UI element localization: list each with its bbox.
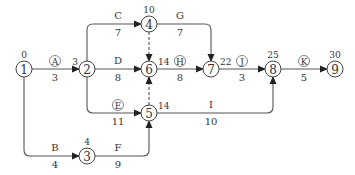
activity-duration: 7: [115, 27, 121, 38]
activity-label: A: [51, 57, 59, 67]
node-number: 1: [20, 63, 28, 77]
activity-duration: 8: [177, 72, 183, 83]
activity-duration: 7: [177, 27, 183, 38]
node-number: 3: [83, 150, 91, 164]
activity-arrow-g: [157, 24, 211, 61]
activity-duration: 4: [52, 159, 58, 170]
activity-label: C: [114, 10, 122, 21]
activity-label: G: [176, 10, 184, 21]
node-time: 14: [158, 57, 170, 67]
node-time: 3: [72, 57, 78, 67]
node-number: 4: [145, 18, 153, 32]
activity-label: F: [115, 142, 122, 153]
activity-label: H: [176, 57, 184, 67]
node-time: 30: [329, 50, 341, 60]
activity-label: D: [114, 55, 122, 66]
node-time: 14: [158, 101, 170, 111]
activity-label: K: [301, 57, 308, 67]
node-time: 22: [220, 57, 231, 67]
network-svg: 123456789 A3B4C7D8E11F9G7H8I10J3K5034101…: [0, 0, 355, 175]
node-time: 4: [84, 137, 90, 147]
activity-label: I: [209, 99, 213, 110]
node-number: 9: [331, 63, 339, 77]
activity-label: B: [51, 142, 58, 153]
activity-duration: 5: [301, 72, 307, 83]
activity-duration: 3: [52, 72, 58, 83]
node-number: 5: [145, 107, 153, 121]
node-time: 0: [21, 50, 27, 60]
node-number: 2: [83, 63, 91, 77]
activity-duration: 3: [239, 72, 245, 83]
activity-duration: 10: [205, 116, 218, 127]
activity-duration: 11: [112, 116, 125, 127]
activity-duration: 8: [115, 72, 121, 83]
node-number: 8: [269, 63, 277, 77]
node-time: 25: [267, 50, 279, 60]
node-number: 6: [145, 63, 153, 77]
node-time: 10: [143, 5, 155, 15]
activity-arrow-i: [157, 77, 273, 113]
node-number: 7: [207, 63, 215, 77]
activity-duration: 9: [115, 159, 121, 170]
network-diagram: 123456789 A3B4C7D8E11F9G7H8I10J3K5034101…: [0, 0, 355, 175]
activity-label: J: [239, 57, 244, 67]
activity-label: E: [115, 101, 122, 111]
